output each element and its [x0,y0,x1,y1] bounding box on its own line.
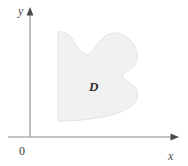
x-axis-label: x [167,149,174,163]
figure-container: y x 0 D [0,0,188,166]
region-diagram-svg: y x 0 D [0,0,188,166]
region-label-d: D [88,79,99,94]
y-axis-label: y [17,4,24,18]
x-axis-arrowhead-icon [171,134,180,141]
origin-label: 0 [19,144,25,158]
y-axis-arrowhead-icon [27,7,34,16]
region-d-shape [58,32,138,121]
